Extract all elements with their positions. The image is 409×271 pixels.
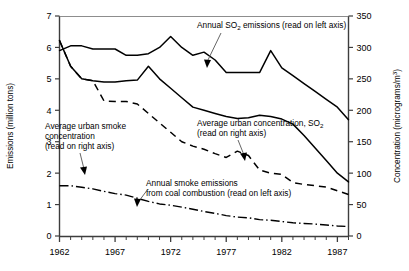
left-tick-label-6: 6 [46, 43, 51, 53]
left-tick-label-1: 1 [46, 200, 51, 210]
annot1-post: emissions (read on left axis) [241, 20, 347, 30]
x-tick-label-1962: 1962 [49, 247, 69, 257]
annot-urban-smoke-line3: (read on right axis) [45, 141, 114, 151]
x-tick-label-1987: 1987 [327, 247, 347, 257]
annot-urban-smoke-line1: Average urban smoke [45, 121, 126, 131]
left-tick-label-2: 2 [46, 169, 51, 179]
annot3-subscript: 2 [320, 122, 324, 129]
x-tick-label-1982: 1982 [272, 247, 292, 257]
annot3-pre: Average urban concentration, SO [197, 118, 321, 128]
annot-urban-smoke-line2: concentration [45, 131, 95, 141]
left-tick-label-4: 4 [46, 106, 51, 116]
right-tick-label-200: 200 [357, 106, 372, 116]
x-tick-label-1972: 1972 [161, 247, 181, 257]
right-tick-label-350: 350 [357, 11, 372, 21]
left-tick-label-5: 5 [46, 74, 51, 84]
y2-axis-title: Concentration (micrograms/m3) [391, 69, 402, 183]
right-tick-label-100: 100 [357, 169, 372, 179]
left-tick-label-0: 0 [46, 231, 51, 241]
annot-urban-so2-conc-line2: (read on right axis) [197, 128, 266, 138]
right-tick-label-150: 150 [357, 137, 372, 147]
annot1-pre: Annual SO [197, 20, 238, 30]
right-tick-label-250: 250 [357, 74, 372, 84]
chart-container: 01234567 050100150200250300350 196219671… [0, 0, 409, 271]
x-tick-label-1977: 1977 [216, 247, 236, 257]
y-axis-title: Emissions (million tons) [6, 83, 15, 169]
left-tick-label-7: 7 [46, 11, 51, 21]
y2-axis-title-close: ) [393, 69, 402, 72]
right-tick-label-0: 0 [357, 231, 362, 241]
right-tick-label-50: 50 [357, 200, 367, 210]
annot-smoke-emissions-line2: from coal combustion (read on left axis) [146, 188, 291, 198]
x-tick-label-1967: 1967 [105, 247, 125, 257]
annot-smoke-emissions-line1: Annual smoke emissions [146, 178, 238, 188]
emissions-concentration-line-chart: 01234567 050100150200250300350 196219671… [0, 0, 409, 271]
right-tick-label-300: 300 [357, 43, 372, 53]
annot-so2-emissions-text: Annual SO2 emissions (read on left axis) [197, 20, 346, 31]
y2-axis-title-text: Concentration (micrograms/m [393, 75, 402, 183]
